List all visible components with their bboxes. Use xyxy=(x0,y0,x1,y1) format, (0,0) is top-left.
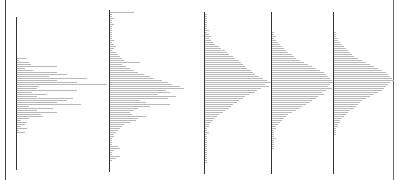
histogram-bar xyxy=(17,72,57,73)
histogram-bar xyxy=(205,130,207,131)
histogram-bar xyxy=(110,152,112,153)
histogram-bar xyxy=(272,56,294,57)
histogram-bar xyxy=(110,106,150,107)
histogram-bar xyxy=(110,18,114,19)
histogram-bar xyxy=(272,112,292,113)
histogram-bar xyxy=(272,144,274,145)
histogram-bar xyxy=(272,148,274,149)
histogram-bar xyxy=(205,138,207,139)
histogram-bar xyxy=(334,60,362,61)
histogram-bar xyxy=(205,28,207,29)
histogram-bar xyxy=(334,120,340,121)
histogram-bar xyxy=(110,132,116,133)
histogram-bar xyxy=(17,106,29,107)
histogram-bar xyxy=(17,84,107,85)
histogram-bar xyxy=(272,44,280,45)
histogram-bar xyxy=(205,26,207,27)
histogram-bar xyxy=(272,90,326,91)
histogram-bar xyxy=(17,108,53,109)
histogram-bar xyxy=(205,22,207,23)
histogram-bar xyxy=(272,34,274,35)
histogram-bar xyxy=(205,20,207,21)
histogram-bar xyxy=(17,132,25,133)
histogram-bar xyxy=(17,76,49,77)
histogram-bar xyxy=(110,24,114,25)
histogram-bar xyxy=(272,120,282,121)
histogram-bar xyxy=(110,88,184,89)
histogram-bar xyxy=(110,74,144,75)
histogram-bar xyxy=(110,148,120,149)
histogram-bar xyxy=(272,40,276,41)
histogram-bar xyxy=(110,38,112,39)
page-border-left xyxy=(5,0,6,180)
histogram-bar xyxy=(205,32,207,33)
histogram-bar xyxy=(17,64,31,65)
histogram-bar xyxy=(17,120,21,121)
histogram-bar xyxy=(205,160,207,161)
histogram-bar xyxy=(334,112,348,113)
histogram-bar xyxy=(110,46,116,47)
histogram-bar xyxy=(272,108,300,109)
histogram-bar xyxy=(110,82,168,83)
histogram-bar xyxy=(272,136,274,137)
histogram-bar xyxy=(272,116,286,117)
histogram-bar xyxy=(205,74,255,75)
histogram-bar xyxy=(205,68,247,69)
histogram-bar xyxy=(205,46,219,47)
histogram-bar xyxy=(334,40,338,41)
histogram-bar xyxy=(205,84,265,85)
histogram-bar xyxy=(205,44,215,45)
histogram-bar xyxy=(17,124,25,125)
histogram-bar xyxy=(272,42,278,43)
histogram-bar xyxy=(17,104,81,105)
histogram-bar xyxy=(272,64,308,65)
histogram-bar xyxy=(334,32,336,33)
histogram-bar xyxy=(334,114,346,115)
histogram-bar xyxy=(334,42,340,43)
histogram-bar xyxy=(110,138,112,139)
histogram-bar xyxy=(17,86,39,87)
histogram-bar xyxy=(205,90,257,91)
histogram-bar xyxy=(334,96,370,97)
histogram-bar xyxy=(334,122,340,123)
histogram-bar xyxy=(334,84,388,85)
histogram-bar xyxy=(110,136,114,137)
histogram-bar xyxy=(110,78,154,79)
histogram-bar xyxy=(110,94,158,95)
histogram-bar xyxy=(205,98,243,99)
histogram-bar xyxy=(17,130,19,131)
histogram-bar xyxy=(110,26,112,27)
histogram-bar xyxy=(205,134,207,135)
histogram-bar xyxy=(272,68,316,69)
histogram-bar xyxy=(334,36,336,37)
histogram-bar xyxy=(110,102,146,103)
histogram-bar xyxy=(205,70,251,71)
histogram-bar xyxy=(110,48,114,49)
histogram-bar xyxy=(110,146,118,147)
histogram-bar xyxy=(272,74,326,75)
histogram-bar xyxy=(272,110,296,111)
histogram-bar xyxy=(334,44,342,45)
histogram-bar xyxy=(334,46,344,47)
histogram-bar xyxy=(272,70,320,71)
histogram-bar xyxy=(272,98,316,99)
histogram-bar xyxy=(17,92,32,93)
histogram-bar xyxy=(334,68,378,69)
histogram-bar xyxy=(110,98,168,99)
histogram-bar xyxy=(334,62,366,63)
histogram-bar xyxy=(205,102,237,103)
histogram-bar xyxy=(334,76,390,77)
histogram-bar xyxy=(17,112,57,113)
histogram-bar xyxy=(205,18,207,19)
histogram-bar xyxy=(334,56,354,57)
histogram-bar xyxy=(110,40,114,41)
histogram-bar xyxy=(334,118,342,119)
histogram-bar xyxy=(110,34,112,35)
histogram-bar xyxy=(17,128,27,129)
histogram-bar xyxy=(334,72,386,73)
histogram-bar xyxy=(110,150,114,151)
histogram-bar xyxy=(205,54,229,55)
histogram-bar xyxy=(17,126,21,127)
histogram-bar xyxy=(205,60,239,61)
histogram-bar xyxy=(17,98,73,99)
